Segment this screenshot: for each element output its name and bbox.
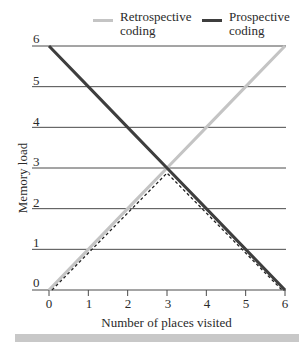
x-tick-0: 0 bbox=[42, 296, 56, 312]
x-tick-5: 5 bbox=[239, 296, 253, 312]
y-tick-3: 3 bbox=[33, 154, 40, 170]
legend-prospective-line2: coding bbox=[229, 23, 264, 38]
x-tick-3: 3 bbox=[161, 296, 175, 312]
y-axis-label: Memory load bbox=[15, 133, 31, 223]
prospective-swatch-icon bbox=[202, 19, 222, 22]
x-tick-1: 1 bbox=[82, 296, 96, 312]
x-tick-4: 4 bbox=[200, 296, 214, 312]
x-axis-label: Number of places visited bbox=[0, 315, 299, 331]
y-tick-5: 5 bbox=[33, 73, 40, 89]
y-tick-2: 2 bbox=[33, 195, 40, 211]
footer-divider-bar bbox=[15, 334, 299, 342]
legend-retrospective-line1: Retrospective bbox=[120, 9, 191, 24]
y-tick-1: 1 bbox=[33, 235, 40, 251]
y-tick-0: 0 bbox=[33, 275, 40, 291]
retrospective-swatch-icon bbox=[93, 19, 113, 22]
legend-prospective-line1: Prospective bbox=[229, 9, 290, 24]
legend-retrospective-line2: coding bbox=[120, 23, 155, 38]
x-tick-6: 6 bbox=[278, 296, 292, 312]
dashed-minimum-line bbox=[52, 173, 282, 290]
y-tick-4: 4 bbox=[33, 114, 40, 130]
y-tick-6: 6 bbox=[33, 31, 40, 47]
x-tick-2: 2 bbox=[121, 296, 135, 312]
